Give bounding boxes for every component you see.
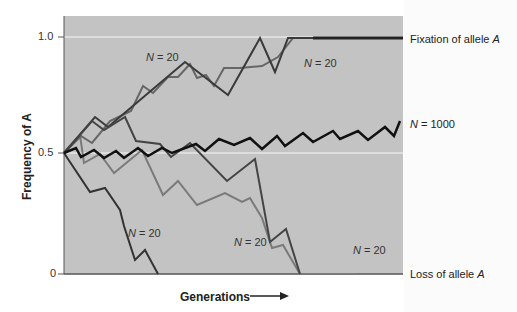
loss-label: Loss of allele A	[410, 268, 485, 280]
label-n20-loss-middle: N = 20	[234, 236, 267, 248]
x-axis-label: Generations	[180, 290, 250, 304]
label-n20-loss-early: N = 20	[128, 227, 161, 239]
label-n20-loss-light: N = 20	[353, 244, 386, 256]
y-axis-label: Frequency of A	[20, 113, 34, 200]
chart-plot	[0, 0, 517, 312]
label-n20-top: N = 20	[146, 51, 179, 63]
label-n20-fixation: N = 20	[304, 57, 337, 69]
fixation-label: Fixation of allele A	[410, 33, 500, 45]
y-tick-1: 1.0	[38, 30, 53, 42]
y-tick-0: 0	[50, 267, 56, 279]
y-tick-05: 0.5	[38, 146, 53, 158]
n1000-label: N = 1000	[410, 118, 455, 130]
